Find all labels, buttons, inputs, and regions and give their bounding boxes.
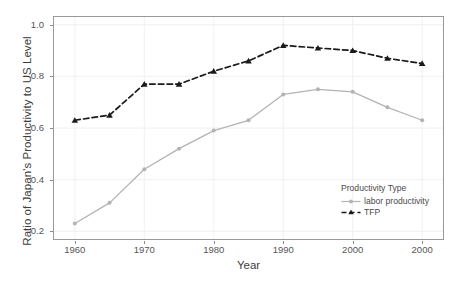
x-tick-mark	[353, 241, 354, 244]
legend-label-tfp: TFP	[364, 207, 380, 217]
x-tick-mark	[214, 241, 215, 244]
y-tick-label: 0.8	[0, 71, 44, 81]
productivity-ratio-line-chart: Ratio of Japan's Productivity to US Leve…	[0, 0, 457, 282]
x-tick-label: 2000	[402, 244, 442, 255]
y-axis-title: Ratio of Japan's Productivity to US Leve…	[18, 0, 36, 282]
x-axis-title: Year	[53, 259, 444, 271]
x-tick-label: 1970	[124, 244, 164, 255]
y-tick-label: 0.6	[0, 123, 44, 133]
legend-key-line-circle-icon	[341, 196, 361, 207]
x-tick-mark	[422, 241, 423, 244]
x-tick-label: 1960	[55, 244, 95, 255]
x-tick-label: 2000	[333, 244, 373, 255]
legend: Productivity Type labor productivity TFP	[341, 183, 429, 218]
x-tick-mark	[75, 241, 76, 244]
y-tick-label: 0.2	[0, 226, 44, 236]
legend-label-labor-productivity: labor productivity	[364, 196, 429, 206]
legend-item-tfp[interactable]: TFP	[341, 207, 429, 218]
y-tick-label: 0.4	[0, 175, 44, 185]
x-tick-label: 1990	[263, 244, 303, 255]
x-tick-label: 1980	[194, 244, 234, 255]
y-tick-label: 1.0	[0, 20, 44, 30]
x-tick-mark	[144, 241, 145, 244]
legend-key-dashed-triangle-icon	[341, 207, 361, 218]
x-tick-mark	[283, 241, 284, 244]
legend-item-labor-productivity[interactable]: labor productivity	[341, 196, 429, 207]
legend-title: Productivity Type	[341, 183, 429, 193]
